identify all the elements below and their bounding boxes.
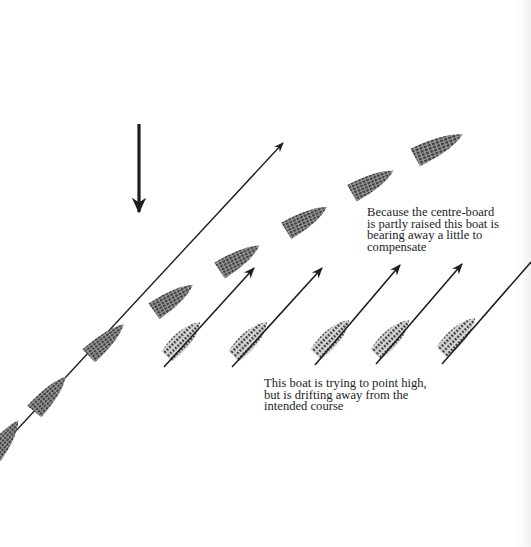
boat-with-heading-line xyxy=(435,262,531,364)
boat-icon xyxy=(435,312,482,359)
boat-icon xyxy=(369,314,416,361)
boat-icon xyxy=(214,241,266,280)
boats-lower-row xyxy=(160,262,531,367)
caption-point-high: This boat is trying to point high, but i… xyxy=(264,378,442,413)
boat-icon xyxy=(410,129,467,167)
caption-centreboard-raised: Because the centre-board is partly raise… xyxy=(367,207,510,253)
boat-icon xyxy=(148,280,200,320)
sailing-diagram xyxy=(0,0,531,547)
boat-icon xyxy=(309,314,356,361)
caption-line: compensate xyxy=(367,242,510,254)
boat-icon xyxy=(227,316,274,363)
boat-icon xyxy=(347,166,399,202)
boat-icon xyxy=(160,316,207,363)
boat-icon xyxy=(281,203,333,241)
boat-icon xyxy=(0,417,29,463)
caption-line: intended course xyxy=(264,401,442,413)
boats-on-course xyxy=(0,320,132,462)
boat-icon xyxy=(82,320,132,363)
